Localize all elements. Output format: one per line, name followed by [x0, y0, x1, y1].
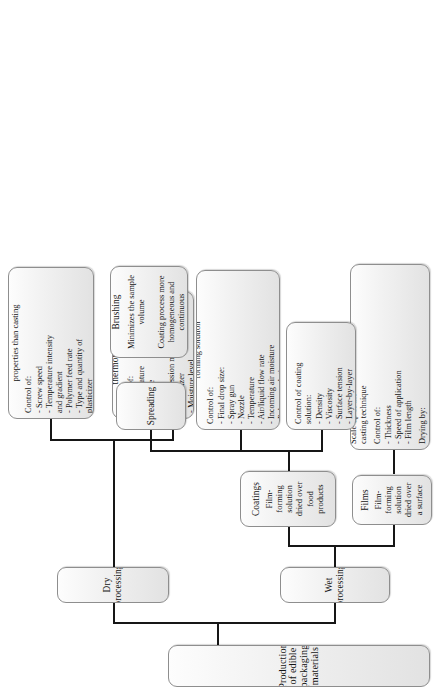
- connector-coatings-dipping: [321, 430, 323, 452]
- connector-root-trunk: [217, 623, 219, 647]
- node-spraying-control-items: - Final drop size: - Spray gun - Nozzle …: [217, 276, 280, 424]
- node-root[interactable]: Production of edible packaging materials: [168, 645, 430, 687]
- node-brushing-body: Minimizes the sample volume Coating proc…: [127, 272, 187, 352]
- connector-films-tape: [393, 450, 395, 474]
- connector-dry-bus: [50, 439, 174, 441]
- node-spraying-subtitle: Low-viscous-coating- forming solution: [196, 276, 202, 424]
- node-films-title: Films: [360, 481, 371, 519]
- node-coatings-title: Coatings: [251, 477, 262, 521]
- node-brushing-title: Brushing: [111, 272, 122, 352]
- node-spreading[interactable]: Spreading: [116, 382, 186, 430]
- node-tape-casting-drying-heading: Drying by:: [418, 270, 428, 444]
- node-dry-processing[interactable]: Dry processing: [57, 567, 169, 603]
- node-root-title: Production of edible packaging materials: [278, 645, 320, 687]
- node-wet-processing[interactable]: Wet processing: [280, 567, 390, 603]
- flowchart-canvas: Production of edible packaging materials…: [0, 0, 436, 695]
- connector-dry-out: [113, 440, 115, 568]
- node-spreading-title: Spreading: [146, 387, 157, 426]
- node-tape-casting[interactable]: Tape casting/ spread coating Scale-up of…: [350, 264, 430, 450]
- connector-wet-films: [393, 525, 395, 547]
- connector-wet-out: [334, 546, 336, 568]
- node-films-subtitle: Film-forming solution dried over a surfa…: [373, 481, 424, 519]
- node-dry-processing-title: Dry processing: [102, 567, 123, 603]
- connector-dry-extrusion: [50, 419, 52, 441]
- connector-coatings-spraying: [240, 430, 242, 452]
- node-extrusion-control-items: - Screw speed - Temperature intensity an…: [35, 273, 94, 413]
- connector-coatings-bus: [150, 450, 322, 452]
- connector-coatings-out: [288, 451, 290, 471]
- node-extrusion[interactable]: Extrusion Better mechanical barrier and …: [8, 267, 94, 419]
- connector-coatings-spreading: [150, 430, 152, 452]
- node-tape-casting-drying-items: - Heat conduction - Heat convection - In…: [429, 270, 430, 444]
- node-dipping-control-items: - Density - Viscosity - Surface tension …: [315, 328, 356, 424]
- node-spraying-control-heading: Control of:: [206, 276, 216, 424]
- node-dipping[interactable]: Dipping Control of coating solution: - D…: [286, 322, 356, 430]
- connector-trunk-vertical: [113, 622, 335, 624]
- connector-trunk-wet: [334, 602, 336, 624]
- connector-trunk-dry: [113, 602, 115, 624]
- node-extrusion-subtitle: Better mechanical barrier and microstruc…: [8, 273, 20, 413]
- node-coatings[interactable]: Coatings Film-forming solution dried ove…: [240, 471, 336, 527]
- node-tape-casting-control-items: - Thickness - Speed of application - Fil…: [384, 270, 414, 444]
- node-tape-casting-control-heading: Control of:: [373, 270, 383, 444]
- diagram-rotation-wrapper: Production of edible packaging materials…: [0, 0, 436, 695]
- node-wet-processing-title: Wet processing: [324, 567, 345, 603]
- node-spraying[interactable]: Spraying Low-viscous-coating- forming so…: [196, 270, 280, 430]
- node-extrusion-control-heading: Control of:: [24, 273, 34, 413]
- node-coatings-subtitle: Film-forming solution dried over food pr…: [264, 477, 325, 521]
- connector-wet-bus: [288, 545, 394, 547]
- node-dipping-control-heading: Control of coating solution:: [294, 328, 314, 424]
- node-films[interactable]: Films Film-forming solution dried over a…: [352, 475, 432, 525]
- connector-wet-coatings: [288, 525, 290, 547]
- node-brushing[interactable]: Brushing Minimizes the sample volume Coa…: [110, 266, 188, 358]
- node-dipping-title: Dipping: [286, 328, 288, 424]
